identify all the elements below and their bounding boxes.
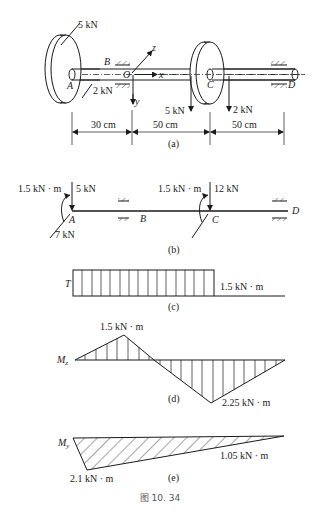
force-label-c-left: 5 kN (165, 105, 185, 116)
z-axis-label: z (151, 42, 156, 53)
point-a-label: A (66, 80, 74, 91)
mz-negative-peak-label: 2.25 kN · m (222, 397, 271, 408)
coordinate-axes: z y x (132, 42, 164, 107)
panel-d-label: (d) (168, 393, 180, 405)
load-label-a-vertical: 5 kN (76, 183, 96, 194)
pulley-a (45, 35, 100, 103)
point-b-label-b: B (140, 213, 146, 224)
force-label-a-top: 5 kN (78, 19, 98, 30)
torque-value-label: 1.5 kN · m (220, 281, 264, 292)
point-o-label: O (123, 69, 130, 80)
figure-canvas: z y x A B O C D 5 kN 2 kN 5 kN 2 kN (0, 0, 315, 521)
panel-c-torque-diagram: T 1.5 kN · m (c) (65, 270, 285, 313)
my-left-peak-label: 2.1 kN · m (70, 473, 114, 484)
my-axis-label: My (57, 437, 70, 450)
load-label-a-moment: 1.5 kN · m (18, 183, 62, 194)
force-arrow-a-bottom (82, 84, 92, 98)
horizontal-load-c (192, 214, 208, 238)
dimension-ab: 30 cm (91, 119, 116, 130)
load-label-c-moment: 1.5 kN · m (158, 183, 202, 194)
mz-positive-peak-label: 1.5 kN · m (100, 321, 144, 332)
dimension-cd: 50 cm (232, 119, 257, 130)
z-axis-arrow (132, 51, 152, 73)
mz-positive-region (75, 335, 154, 360)
dimension-bc: 50 cm (153, 119, 178, 130)
my-right-value-label: 1.05 kN · m (220, 450, 269, 461)
x-axis-label: x (158, 69, 164, 80)
mz-positive-hatching (85, 338, 149, 360)
panel-e-my-diagram: My 2.1 kN · m 1.05 kN · m (e) (57, 436, 284, 484)
force-label-a-bottom: 2 kN (93, 85, 113, 96)
mz-axis-label: Mz (56, 354, 68, 367)
point-c-label: C (207, 79, 214, 90)
panel-a-label: (a) (168, 138, 179, 150)
y-axis-label: y (134, 96, 140, 107)
figure-caption: 图 10. 34 (140, 493, 181, 503)
torque-axis-label: T (65, 278, 72, 289)
load-label-a-horizontal: 7 kN (55, 229, 75, 240)
load-label-c-vertical: 12 kN (214, 183, 239, 194)
point-d-label-b: D (291, 205, 300, 216)
panel-e-label: (e) (168, 472, 179, 484)
panel-a-shaft-diagram: z y x A B O C D 5 kN 2 kN 5 kN 2 kN (45, 19, 305, 150)
panel-b-label: (b) (168, 244, 180, 256)
panel-d-mz-diagram: Mz 1.5 kN · m 2.25 kN · m (d) (56, 321, 285, 408)
panel-c-label: (c) (168, 301, 179, 313)
point-c-label-b: C (212, 214, 219, 225)
moment-arc-c (200, 195, 208, 222)
torque-block (73, 270, 214, 296)
point-b-label: B (104, 56, 110, 67)
panel-b-load-diagram: 1.5 kN · m 5 kN 7 kN 1.5 kN · m 12 kN A … (18, 182, 300, 256)
point-a-label-b: A (68, 214, 76, 225)
force-label-c-right: 2 kN (233, 104, 253, 115)
point-d-label: D (287, 79, 296, 90)
torque-hatching (82, 270, 204, 296)
pulley-c (150, 42, 305, 104)
